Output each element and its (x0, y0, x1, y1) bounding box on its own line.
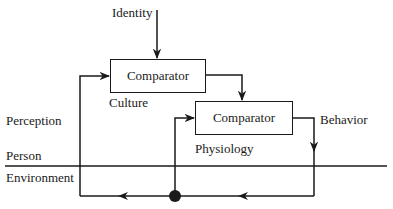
comparator-culture-box: Comparator (110, 59, 206, 93)
comparator-culture-label: Comparator (127, 68, 189, 84)
person-label: Person (6, 149, 41, 162)
perception-feedback-outer (80, 76, 109, 196)
feedback-control-diagram: Identity Comparator Culture Comparator P… (0, 0, 393, 209)
culture-label: Culture (109, 96, 148, 109)
environment-label: Environment (6, 171, 74, 184)
culture-to-physiology-arrow (206, 75, 242, 100)
comparator-physiology-label: Comparator (213, 110, 275, 126)
identity-label: Identity (112, 6, 152, 19)
physiology-label: Physiology (195, 142, 254, 155)
behavior-arrow (293, 118, 314, 151)
perception-label: Perception (6, 114, 62, 127)
comparator-physiology-box: Comparator (195, 101, 293, 135)
behavior-label: Behavior (320, 113, 368, 126)
perception-feedback-inner (175, 118, 194, 196)
junction-dot (169, 190, 181, 202)
